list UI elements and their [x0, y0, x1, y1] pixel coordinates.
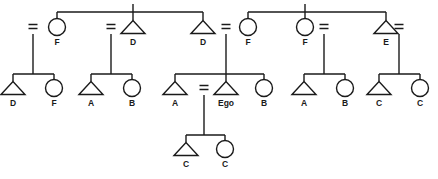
person-male-f2-c1[interactable]	[79, 82, 103, 95]
person-male-g1-d2[interactable]	[191, 21, 215, 34]
person-label-g1-f1: F	[54, 37, 59, 47]
person-label-g1-d1: D	[130, 37, 136, 47]
kinship-diagram: FDDFFEDFABAEgoBABCCCC	[0, 0, 438, 179]
person-female-f1-c2[interactable]	[46, 80, 63, 97]
person-label-g1-d2: D	[200, 37, 206, 47]
person-label-f4-c2: B	[342, 98, 348, 108]
person-label-f1-c2: F	[51, 98, 56, 108]
person-label-f6-c2: C	[222, 159, 228, 169]
person-male-g1-e1[interactable]	[374, 21, 398, 34]
person-female-g1-f3[interactable]	[297, 19, 314, 36]
person-label-f3-c3: B	[261, 98, 267, 108]
marriage-sign-fam1	[29, 25, 38, 29]
person-label-f2-c2: B	[129, 98, 135, 108]
person-male-f3-c1[interactable]	[163, 82, 187, 95]
person-label-g1-f2: F	[245, 37, 250, 47]
person-female-g1-f1[interactable]	[49, 19, 66, 36]
marriage-sign-fam3	[222, 25, 231, 29]
person-female-f3-c3[interactable]	[256, 80, 273, 97]
person-male-f6-c1[interactable]	[174, 143, 198, 156]
person-label-f5-c2: C	[417, 98, 423, 108]
person-label-f3-c1: A	[172, 98, 178, 108]
person-female-g1-f2[interactable]	[240, 19, 257, 36]
person-label-f1-c1: D	[10, 98, 16, 108]
person-label-f6-c1: C	[183, 159, 189, 169]
person-label-f2-c1: A	[88, 98, 94, 108]
person-female-f4-c2[interactable]	[337, 80, 354, 97]
marriage-sign-fam6	[200, 86, 209, 90]
person-female-f6-c2[interactable]	[217, 141, 234, 158]
person-label-f5-c1: C	[376, 98, 382, 108]
marriage-sign-fam4	[320, 25, 329, 29]
person-label-g1-f3: F	[302, 37, 307, 47]
person-label-f3-ego: Ego	[218, 98, 234, 108]
marriage-sign-fam5	[395, 25, 404, 29]
person-label-f4-c1: A	[301, 98, 307, 108]
person-male-f1-c1[interactable]	[1, 82, 25, 95]
kinship-canvas: FDDFFEDFABAEgoBABCCCC	[0, 0, 438, 179]
person-female-f2-c2[interactable]	[124, 80, 141, 97]
person-male-f5-c1[interactable]	[367, 82, 391, 95]
person-female-f5-c2[interactable]	[412, 80, 429, 97]
person-male-f3-ego[interactable]	[214, 82, 238, 95]
person-male-f4-c1[interactable]	[292, 82, 316, 95]
person-male-g1-d1[interactable]	[121, 21, 145, 34]
person-label-g1-e1: E	[383, 37, 389, 47]
marriage-sign-fam2	[107, 25, 116, 29]
